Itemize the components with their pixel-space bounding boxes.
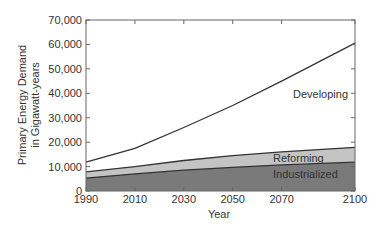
- y-tick-label: 60,000: [48, 38, 82, 50]
- label-reforming: Reforming: [273, 152, 324, 164]
- x-tick-label: 1990: [74, 193, 98, 205]
- label-industrialized: Industrialized: [273, 168, 338, 180]
- y-tick-label: 30,000: [48, 112, 82, 124]
- energy-demand-chart: 010,00020,00030,00040,00050,00060,00070,…: [0, 0, 385, 231]
- y-tick-label: 20,000: [48, 136, 82, 148]
- y-axis-title-line2: in Gigawatt-years: [29, 62, 41, 148]
- y-tick-label: 70,000: [48, 14, 82, 26]
- label-developing: Developing: [293, 88, 348, 100]
- y-tick-label: 50,000: [48, 63, 82, 75]
- y-axis-title-line1: Primary Energy Demand: [16, 45, 28, 165]
- y-tick-label: 10,000: [48, 161, 82, 173]
- x-axis-title: Year: [208, 208, 231, 220]
- y-tick-label: 40,000: [48, 87, 82, 99]
- x-tick-label: 2050: [220, 193, 244, 205]
- x-tick-label: 2010: [123, 193, 147, 205]
- x-tick-label: 2070: [269, 193, 293, 205]
- chart-canvas: 010,00020,00030,00040,00050,00060,00070,…: [0, 0, 385, 231]
- x-tick-label: 2030: [172, 193, 196, 205]
- y-axis-title: Primary Energy Demand in Gigawatt-years: [16, 45, 41, 165]
- x-tick-label: 2100: [343, 193, 367, 205]
